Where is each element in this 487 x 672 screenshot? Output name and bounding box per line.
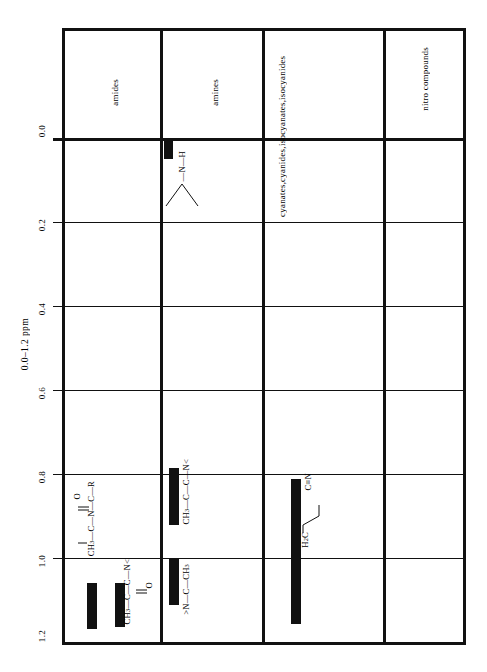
column-divider-1: [160, 31, 163, 642]
structure-amine-1-chain: CH3—C—C—N<: [182, 459, 191, 524]
bar-amide-ch3cncr: [87, 583, 97, 629]
column-header-cyanides-line-4: isocyanides: [277, 56, 287, 100]
tick-label-0: 0.0: [38, 125, 47, 137]
structure-amine-nh-label: —N—H: [178, 151, 187, 181]
structure-amide-1-nh-bond: [76, 538, 88, 548]
bar-amine-nh: [164, 138, 173, 159]
bar-amine-ch3ccn: [169, 468, 179, 525]
structure-amide-1-chain: CH3—C—N—C—R: [87, 481, 96, 556]
column-divider-3: [383, 31, 386, 642]
tick-mark-5: [53, 558, 62, 559]
bar-nitrile-h2ccn: [291, 479, 301, 624]
tick-mark-0: [53, 138, 62, 141]
structure-nitrile-h2c: H2C: [301, 532, 310, 548]
structure-amine-2-chain: >N—C—CH3: [182, 564, 191, 615]
tick-mark-3: [53, 390, 62, 391]
nmr-chemical-shift-chart: 0.0–1.2 ppm 0.0 0.2 0.4 0.6 0.8 1.0 1.2 …: [0, 0, 487, 672]
tick-label-5: 1.0: [38, 555, 47, 567]
structure-nitrile-bracket: [299, 504, 321, 534]
gridline-0.8: [65, 474, 463, 475]
column-header-cyanides-line-2: cyanides,: [277, 146, 287, 182]
tick-label-3: 0.6: [38, 387, 47, 399]
structure-amine-nh-bracket: [165, 181, 199, 207]
gridline-0.0: [65, 138, 463, 141]
tick-label-1: 0.2: [38, 219, 47, 231]
structure-amide-1-oxygen: O: [73, 493, 82, 499]
tick-mark-4: [53, 474, 62, 475]
axis-title: 0.0–1.2 ppm: [20, 318, 30, 370]
tick-label-2: 0.4: [38, 303, 47, 315]
structure-amide-1-double-bond: [76, 503, 90, 515]
column-divider-2: [262, 31, 265, 642]
tick-label-6: 1.2: [38, 630, 47, 642]
tick-mark-1: [53, 222, 62, 223]
bar-amine-ncch3: [169, 558, 179, 605]
gridline-0.6: [65, 390, 463, 391]
structure-amide-2-oxygen: O: [145, 582, 154, 588]
tick-label-4: 0.8: [38, 471, 47, 483]
gridline-0.4: [65, 306, 463, 307]
column-header-cyanides-line-3: isocyanates,: [277, 100, 287, 146]
tick-mark-2: [53, 306, 62, 307]
column-header-cyanides: cyanates, cyanides, isocyanates, isocyan…: [277, 56, 287, 217]
structure-nitrile-cn: C≡N: [304, 473, 313, 490]
structure-amide-2-chain: CH3—C—C—N<: [123, 559, 132, 624]
column-header-amines: amines: [210, 79, 220, 106]
column-header-cyanides-line-1: cyanates,: [277, 182, 287, 217]
plot-frame: amides amines cyanates, cyanides, isocya…: [62, 28, 466, 645]
column-header-nitro: nitro compounds: [420, 47, 430, 111]
column-header-amides: amides: [110, 79, 120, 106]
gridline-0.2: [65, 222, 463, 223]
